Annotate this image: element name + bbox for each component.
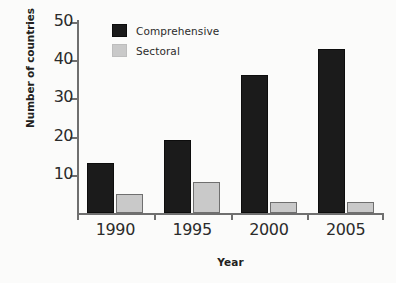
x-tick-mark-1990 (77, 213, 79, 220)
legend-label-comprehensive: Comprehensive (136, 25, 219, 37)
bar-1995-sectoral (193, 182, 220, 213)
x-tick-label-1990: 1990 (96, 220, 135, 239)
x-tick-label-1995: 1995 (173, 220, 212, 239)
plot-area: 1020304050 1990199520002005 Comprehensiv… (77, 20, 384, 215)
y-tick-label: 40 (54, 49, 73, 68)
comprehensive-swatch-icon (112, 24, 127, 37)
legend-label-sectoral: Sectoral (136, 45, 180, 57)
x-tick-label-2000: 2000 (249, 220, 288, 239)
x-tick-mark-2005 (307, 213, 309, 220)
chart-legend: Comprehensive Sectoral (112, 22, 219, 62)
bar-1990-sectoral (116, 194, 143, 213)
sectoral-swatch-icon (112, 44, 127, 57)
x-tick-mark-end (382, 213, 384, 220)
bar-1990-comprehensive (87, 163, 114, 213)
bar-2000-sectoral (270, 202, 297, 213)
y-tick-label: 20 (54, 126, 73, 145)
bar-2000-comprehensive (241, 75, 268, 213)
legend-item-sectoral: Sectoral (112, 42, 219, 59)
x-tick-mark-2000 (231, 213, 233, 220)
y-tick-label: 10 (54, 164, 73, 183)
y-tick-label: 50 (54, 11, 73, 30)
bar-2005-sectoral (347, 202, 374, 213)
bar-chart: Number of countries 1020304050 199019952… (0, 0, 396, 283)
x-tick-mark-1995 (154, 213, 156, 220)
y-axis-title: Number of countries (24, 0, 36, 138)
x-axis-title: Year (77, 256, 384, 268)
bar-2005-comprehensive (318, 49, 345, 213)
x-tick-label-2005: 2005 (326, 220, 365, 239)
legend-item-comprehensive: Comprehensive (112, 22, 219, 39)
bar-1995-comprehensive (164, 140, 191, 213)
y-tick-label: 30 (54, 87, 73, 106)
y-axis-line (77, 20, 79, 215)
